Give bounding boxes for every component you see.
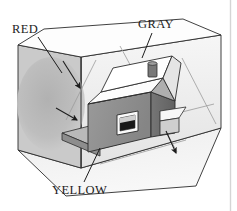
house-window [117,111,138,135]
label-gray: GRAY [138,18,174,31]
house-chimney [148,62,157,77]
label-red: RED [12,23,38,36]
house-porch-wall [160,118,179,135]
figure-canvas: RED GRAY YELLOW [0,0,237,211]
label-yellow: YELLOW [52,184,107,197]
